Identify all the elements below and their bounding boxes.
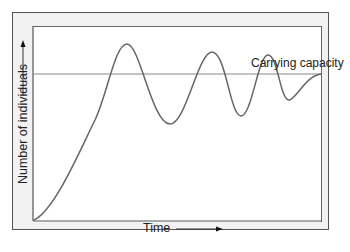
arrow-up-icon bbox=[21, 40, 26, 47]
carrying-capacity-label: Carrying capacity bbox=[251, 56, 344, 70]
y-axis-label: Number of individuals bbox=[16, 64, 30, 184]
arrow-right-icon bbox=[216, 227, 223, 232]
x-axis-label: Time bbox=[143, 221, 170, 235]
population-curve bbox=[34, 44, 321, 220]
population-chart bbox=[0, 0, 350, 252]
